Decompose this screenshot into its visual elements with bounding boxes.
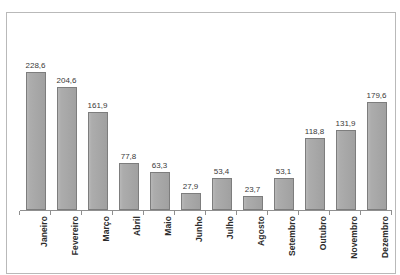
category-label-julho: Julho [225,216,235,239]
x-axis-tick [112,211,113,215]
category-label-maio: Maio [163,216,173,236]
bar-value-label: 53,4 [206,167,238,176]
category-label-junho: Junho [194,216,204,242]
x-axis-tick [205,211,206,215]
category-labels: JaneiroFevereiroMarçoAbrilMaioJunhoJulho… [20,216,392,275]
category-label-setembro: Setembro [287,216,297,256]
category-label-fevereiro: Fevereiro [70,216,80,255]
bar-agosto[interactable] [243,196,263,210]
bar-julho[interactable] [212,178,232,210]
category-label-novembro: Novembro [349,216,359,259]
bar-value-label: 63,3 [144,161,176,170]
bar-setembro[interactable] [274,178,294,210]
bar-novembro[interactable] [336,130,356,210]
bar-value-label: 23,7 [237,185,269,194]
bar-value-label: 27,9 [175,182,207,191]
bar-value-label: 179,6 [361,91,393,100]
bars-layer: 228,6204,6161,977,863,327,953,423,753,11… [20,24,392,210]
category-label-outubro: Outubro [318,216,328,250]
category-label-dezembro: Dezembro [380,216,390,258]
x-axis-tick [267,211,268,215]
bar-value-label: 228,6 [20,61,52,70]
bar-value-label: 53,1 [268,167,300,176]
bar-value-label: 118,8 [299,127,331,136]
bar-value-label: 161,9 [82,101,114,110]
chart-frame: 228,6204,6161,977,863,327,953,423,753,11… [6,12,396,274]
x-axis-tick [360,211,361,215]
bar-maro[interactable] [88,112,108,210]
x-axis-tick [174,211,175,215]
bar-value-label: 131,9 [330,119,362,128]
cropped-header-text [34,0,164,5]
bar-dezembro[interactable] [367,102,387,210]
category-label-abril: Abril [132,216,142,236]
bar-value-label: 204,6 [51,76,83,85]
category-label-janeiro: Janeiro [39,216,49,247]
category-label-maro: Março [101,216,111,242]
bar-outubro[interactable] [305,138,325,210]
x-axis-tick [236,211,237,215]
x-axis-tick [50,211,51,215]
x-axis-tick [19,211,20,215]
x-axis-tick [81,211,82,215]
x-axis-tick [329,211,330,215]
bar-janeiro[interactable] [26,72,46,210]
category-label-agosto: Agosto [256,216,266,246]
bar-abril[interactable] [119,163,139,210]
x-axis-tick [143,211,144,215]
x-axis-tick [391,211,392,215]
x-axis-tick [298,211,299,215]
bar-fevereiro[interactable] [57,87,77,211]
bar-junho[interactable] [181,193,201,210]
x-axis-line [20,210,392,211]
bar-maio[interactable] [150,172,170,210]
bar-value-label: 77,8 [113,152,145,161]
